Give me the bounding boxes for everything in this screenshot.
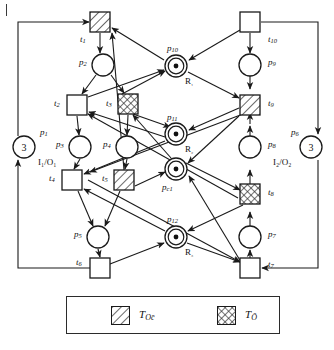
arc-t2-p3 xyxy=(77,116,79,135)
arc-p2-t2 xyxy=(82,75,96,94)
token-count-p1: 3 xyxy=(22,142,27,153)
place-label-pc1: pc1 xyxy=(162,183,173,193)
arc-t10-p10 xyxy=(189,30,240,60)
transition-t9[interactable] xyxy=(240,95,260,115)
transition-t7[interactable] xyxy=(240,258,260,278)
token-dot-pc1 xyxy=(174,167,179,172)
place-p3[interactable] xyxy=(69,136,91,158)
place-label-p8: p8 xyxy=(268,140,276,150)
transition-label-t8: t8 xyxy=(268,188,274,198)
arc-t4-p5 xyxy=(78,191,93,226)
arc-t9-p11 xyxy=(189,108,239,130)
arc-p3-t4 xyxy=(74,159,80,169)
place-p9[interactable] xyxy=(239,54,261,76)
transition-label-t6: t6 xyxy=(76,258,82,268)
arc-p12-t7 xyxy=(187,243,240,262)
transition-t3[interactable] xyxy=(118,94,138,114)
token-count-p6: 3 xyxy=(309,142,314,153)
transition-label-t9: t9 xyxy=(268,99,274,109)
transition-label-t4: t4 xyxy=(49,174,55,184)
place-label-p11: p11 xyxy=(167,113,178,123)
resource-label-p10: R₁ xyxy=(185,77,193,87)
arc-p4-t5 xyxy=(125,159,127,169)
transition-label-t5: t5 xyxy=(102,174,108,184)
place-p8[interactable] xyxy=(239,136,261,158)
io-label-p6: I₂/O₂ xyxy=(273,158,291,167)
transition-t1[interactable] xyxy=(90,12,110,32)
resource-label-p11: R₂ xyxy=(185,145,193,155)
arc-t9-pc1 xyxy=(188,116,239,163)
place-p5[interactable] xyxy=(87,226,109,248)
transition-label-t3: t3 xyxy=(106,99,112,109)
place-label-p1: p1 xyxy=(40,128,48,138)
legend-label-t-oc: TOc̄ xyxy=(139,308,154,322)
figure-root: 33 t1t2t3t4t5t6t7t8t9t10p1I₁/O₁p2p3p4p5p… xyxy=(0,0,334,350)
arc-p12-t4 xyxy=(84,189,165,231)
resource-label-p12: R₃ xyxy=(185,248,193,258)
place-label-p2: p2 xyxy=(79,58,87,68)
token-dot-p12 xyxy=(174,235,179,240)
transition-t5[interactable] xyxy=(114,170,134,190)
place-label-p6: p6 xyxy=(291,128,299,138)
transition-label-t2: t2 xyxy=(54,99,60,109)
transition-t4[interactable] xyxy=(62,170,82,190)
place-p7[interactable] xyxy=(239,226,261,248)
transition-t2[interactable] xyxy=(67,95,87,115)
arc-p1-t1 xyxy=(18,22,89,136)
place-label-p9: p9 xyxy=(268,58,276,68)
arc-p10-t9 xyxy=(188,72,239,98)
place-p2[interactable] xyxy=(92,54,114,76)
legend-swatch-t-o xyxy=(217,306,236,325)
place-label-p5: p5 xyxy=(74,230,82,240)
io-label-p1: I₁/O₁ xyxy=(38,158,56,167)
transition-t8[interactable] xyxy=(240,184,260,204)
transition-label-t10: t10 xyxy=(268,35,277,45)
arc-t6-p12 xyxy=(110,243,164,264)
transition-t10[interactable] xyxy=(240,12,260,32)
place-p4[interactable] xyxy=(116,136,138,158)
token-dot-p10 xyxy=(174,64,179,69)
place-label-p3: p3 xyxy=(56,140,64,150)
place-label-p7: p7 xyxy=(268,230,276,240)
arc-p10-t1 xyxy=(112,28,164,60)
arc-p6-t7 xyxy=(262,160,318,268)
arc-t5-pc1 xyxy=(135,172,165,186)
token-dot-p11 xyxy=(174,132,179,137)
transition-t6[interactable] xyxy=(90,258,110,278)
transition-label-t7: t7 xyxy=(268,260,274,270)
legend-label-t-o: TŌ xyxy=(245,308,257,322)
place-label-p4: p4 xyxy=(103,140,111,150)
arc-pc1-t8 xyxy=(186,163,240,190)
arc-p5-t6 xyxy=(98,249,100,257)
legend-box: TOc̄TŌ xyxy=(66,296,280,334)
place-label-p12: p12 xyxy=(167,215,178,225)
legend-swatch-t-oc xyxy=(111,306,130,325)
place-label-p10: p10 xyxy=(167,44,178,54)
transition-label-t1: t1 xyxy=(80,35,86,45)
arc-t8-p12 xyxy=(188,205,243,231)
